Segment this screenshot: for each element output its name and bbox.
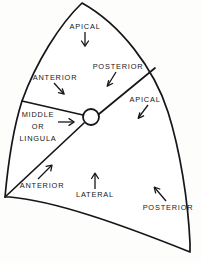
label-middle-lingula-line2: OR [16,122,60,133]
label-apical-upper: APICAL [62,22,108,32]
hilum-circle [83,109,99,125]
label-anterior-lower: ANTERIOR [15,181,69,191]
label-middle-lingula-line3: LINGULA [14,134,62,145]
label-lateral-lower: LATERAL [72,190,118,200]
label-anterior-upper: ANTERIOR [28,73,82,83]
label-middle-lingula-line1: MIDDLE [16,110,60,121]
label-apical-right: APICAL [124,95,166,105]
lung-segment-diagram-page: APICAL POSTERIOR ANTERIOR APICAL MIDDLE … [0,0,201,263]
label-posterior-lower: POSTERIOR [140,203,196,213]
label-posterior-upper: POSTERIOR [90,62,146,72]
